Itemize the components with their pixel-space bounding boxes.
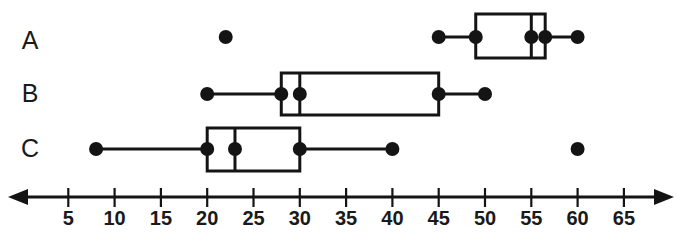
axis-tick-label-55: 55: [520, 207, 542, 229]
number-line-axis: 5101520253035404550556065: [8, 188, 674, 229]
axis-tick-label-50: 50: [474, 207, 496, 229]
data-point-c-1: [200, 142, 214, 156]
axis-tick-label-25: 25: [242, 207, 264, 229]
row-label-c: C: [21, 134, 39, 162]
data-point-a-0: [432, 30, 446, 44]
axis-tick-label-35: 35: [335, 207, 357, 229]
axis-tick-label-20: 20: [196, 207, 218, 229]
data-point-b-1: [274, 87, 288, 101]
axis-tick-label-40: 40: [381, 207, 403, 229]
box-plot-figure: ABC 5101520253035404550556065: [0, 0, 679, 249]
box-plot-row-b: [200, 73, 492, 115]
axis-tick-label-15: 15: [150, 207, 172, 229]
axis-tick-label-60: 60: [566, 207, 588, 229]
outlier-point-c-0: [571, 142, 585, 156]
data-point-c-4: [385, 142, 399, 156]
axis-tick-label-30: 30: [289, 207, 311, 229]
data-point-b-4: [478, 87, 492, 101]
data-point-b-3: [432, 87, 446, 101]
row-labels-group: ABC: [21, 26, 39, 162]
box-plot-row-a: [219, 14, 585, 58]
row-label-a: A: [22, 26, 39, 54]
data-point-a-2: [524, 30, 538, 44]
outlier-point-a-0: [219, 30, 233, 44]
axis-tick-label-5: 5: [63, 207, 74, 229]
axis-tick-label-45: 45: [428, 207, 450, 229]
box-c: [207, 128, 300, 171]
axis-tick-label-65: 65: [613, 207, 635, 229]
data-point-a-3: [538, 30, 552, 44]
data-point-c-0: [89, 142, 103, 156]
row-label-b: B: [22, 79, 39, 107]
data-point-a-4: [571, 30, 585, 44]
box-plots-group: [89, 14, 585, 171]
axis-tick-label-10: 10: [103, 207, 125, 229]
axis-arrow-left-icon: [8, 189, 28, 205]
data-point-c-2: [228, 142, 242, 156]
data-point-b-0: [200, 87, 214, 101]
box-plot-canvas: ABC 5101520253035404550556065: [0, 0, 679, 249]
data-point-c-3: [293, 142, 307, 156]
data-point-a-1: [469, 30, 483, 44]
data-point-b-2: [293, 87, 307, 101]
box-plot-row-c: [89, 128, 585, 171]
axis-arrow-right-icon: [654, 189, 674, 205]
